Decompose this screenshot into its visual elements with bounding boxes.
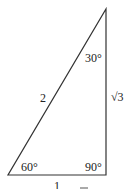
triangle [8, 9, 106, 175]
angle-bottom-left-label: 60° [21, 161, 38, 173]
angle-top-label: 30° [85, 52, 102, 64]
angle-bottom-right-label: 90° [85, 161, 102, 173]
short-leg-label: 1 [54, 180, 60, 189]
long-leg-label: √3 [111, 91, 124, 103]
hypotenuse-label: 2 [40, 92, 46, 104]
